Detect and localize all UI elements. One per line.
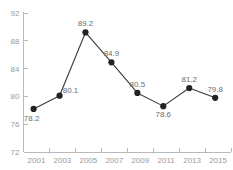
y-tick-label: 80 bbox=[11, 92, 20, 101]
data-point-marker bbox=[108, 59, 114, 65]
data-point-marker bbox=[134, 90, 140, 96]
data-point-label: 80.1 bbox=[63, 86, 79, 95]
chart-plot-area: 727680848892 200120032005200720092011201… bbox=[0, 0, 233, 170]
y-tick-label: 76 bbox=[11, 120, 20, 129]
data-point-marker bbox=[212, 95, 218, 101]
data-point-marker bbox=[82, 29, 88, 35]
y-tick-label: 88 bbox=[11, 37, 20, 46]
data-point-label: 80.5 bbox=[130, 80, 146, 89]
x-tick-label: 2007 bbox=[105, 156, 123, 165]
data-point-label: 78.6 bbox=[156, 110, 172, 119]
data-point-label: 81.2 bbox=[181, 75, 197, 84]
data-point-marker bbox=[160, 103, 166, 109]
data-series bbox=[31, 29, 219, 112]
x-tick-label: 2011 bbox=[158, 156, 176, 165]
x-tick-label: 2015 bbox=[209, 156, 227, 165]
x-tick-label: 2001 bbox=[28, 156, 46, 165]
data-point-marker bbox=[56, 93, 62, 99]
y-tick-label: 72 bbox=[11, 148, 20, 157]
y-tick-label: 84 bbox=[11, 65, 20, 74]
data-point-marker bbox=[31, 106, 37, 112]
x-tick-label: 2009 bbox=[131, 156, 149, 165]
x-tick-label: 2013 bbox=[183, 156, 201, 165]
y-axis: 727680848892 bbox=[11, 9, 28, 157]
data-point-label: 78.2 bbox=[24, 114, 40, 123]
data-point-labels: 78.280.189.284.980.578.681.279.8 bbox=[24, 19, 224, 122]
data-point-label: 79.8 bbox=[207, 85, 223, 94]
y-tick-label: 92 bbox=[11, 9, 20, 18]
x-tick-label: 2003 bbox=[54, 156, 72, 165]
line-chart: 727680848892 200120032005200720092011201… bbox=[0, 0, 233, 170]
x-tick-label: 2005 bbox=[79, 156, 97, 165]
data-point-marker bbox=[186, 85, 192, 91]
data-point-label: 84.9 bbox=[104, 49, 120, 58]
data-point-label: 89.2 bbox=[78, 19, 94, 28]
x-axis: 20012003200520072009201120132015 bbox=[24, 148, 232, 165]
